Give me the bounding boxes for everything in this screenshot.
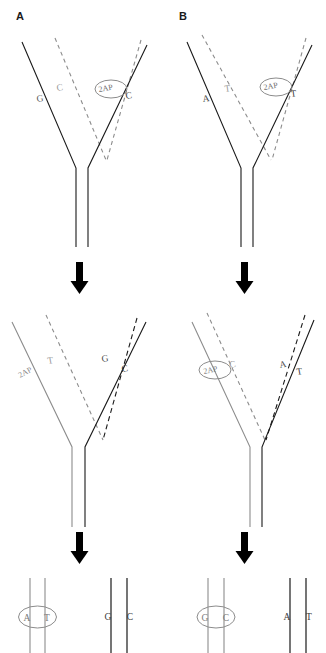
replication-fork-figure: A B G C 2AP C A T 2AP T <box>0 0 326 653</box>
base-label-duplex-b-right-2: T <box>306 612 312 622</box>
duplex-a-left: A T <box>19 578 57 653</box>
base-label-duplex-a-left-1: A <box>24 613 31 623</box>
base-label-duplex-b-left-1: G <box>202 613 209 623</box>
base-label-duplex-a-right-1: G <box>105 612 112 622</box>
duplex-row: A T G C G C A T <box>0 0 326 653</box>
duplex-b-left: G C <box>197 578 235 653</box>
duplex-b-right: A T <box>284 578 313 653</box>
base-label-duplex-b-right-1: A <box>284 612 291 622</box>
base-label-duplex-b-left-2: C <box>223 613 229 623</box>
base-label-duplex-a-right-2: C <box>127 612 133 622</box>
base-label-duplex-a-left-2: T <box>44 613 50 623</box>
duplex-a-right: G C <box>105 578 134 653</box>
